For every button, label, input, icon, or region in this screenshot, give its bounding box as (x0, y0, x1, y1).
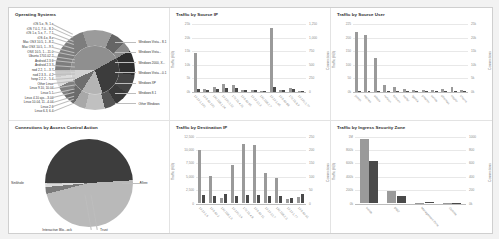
panel-title-traffic-destination-ip: Traffic by Destination IP (176, 125, 227, 130)
bar-connections (279, 196, 282, 204)
x-axis-baseline (196, 204, 306, 205)
bar-connections (263, 91, 266, 92)
bar-connections (425, 202, 434, 203)
y-axis-tick-right: 0 (309, 90, 311, 94)
label-leader-line (115, 72, 136, 73)
x-axis-label: bharris (459, 94, 468, 103)
sunburst-label-left: Linux 6.3, 6.4 (9, 109, 53, 113)
y-axis-tick-right: 0 (309, 202, 311, 206)
bar-chart-traffic-ingress-zone: 1M800k600k400k200k0k10008006004002000kTr… (331, 133, 492, 234)
y-axis-tick-right: 200 (309, 148, 314, 152)
y-axis-tick-left: 0 (170, 202, 194, 206)
y-axis-title-right: Connections (326, 163, 330, 182)
x-axis-label: tmiller (402, 94, 410, 103)
bar-connections (216, 89, 219, 92)
sunburst-label-right: Windows Vista... (138, 50, 161, 54)
bar-traffic (194, 53, 197, 92)
bar-chart-traffic-source-user: 225200150100500k25k20k15k10k5k0kTraffic … (331, 20, 492, 120)
bar-connections (235, 196, 238, 204)
sunburst-label-right: Other Windows (138, 102, 159, 106)
x-axis-baseline (355, 204, 466, 205)
bar-connections (254, 90, 257, 91)
bar-traffic (374, 58, 377, 92)
y-axis-tick-left: 0k (331, 90, 351, 94)
label-leader-line (115, 42, 136, 43)
label-leader-line (115, 62, 136, 63)
gridline (192, 38, 306, 39)
bar-traffic (364, 35, 367, 92)
gridline (353, 78, 468, 79)
y-axis-tick-left: 5k (170, 76, 190, 80)
x-axis-label: 10.100.0.77 (297, 94, 311, 108)
y-axis-tick-left: 800k (331, 148, 353, 152)
label-leader-line (115, 52, 136, 53)
sunburst-label-left: Linux 5.1 (9, 91, 53, 95)
x-axis-label: 10.5.60.91 (297, 206, 309, 219)
label-leader-line (115, 103, 136, 104)
bar-connections (235, 88, 238, 91)
panel-traffic-destination-ip: Traffic by Destination IP 12,50010,0007,… (170, 121, 331, 234)
y-axis-title-left: Traffic (KB) (171, 163, 175, 180)
gridline (192, 78, 306, 79)
panel-title-connections-access-control: Connections by Access Control Action (15, 125, 98, 130)
bar-connections (282, 90, 285, 91)
sunburst-label-right: Windows 2000, X... (138, 61, 165, 65)
bar-traffic (270, 28, 273, 92)
sunburst-label-left: Ubuntu 1701.02.2 (9, 54, 53, 58)
sunburst-label-left: Android 2.3.6 (9, 59, 53, 63)
bar-connections (268, 196, 271, 204)
y-axis-tick-right: 200 (469, 188, 474, 192)
bar-connections (225, 88, 228, 92)
sunburst-label-left: iOS 4.x, 8.x (9, 36, 53, 40)
y-axis-tick-right: 100 (309, 175, 314, 179)
gridline (196, 163, 306, 164)
sunburst-label-left: Linux 2.6 (9, 105, 53, 109)
sunburst-label-left: OSX 10.5, 1....11.0 (9, 50, 53, 54)
sunburst-label-left: Other Linux (9, 82, 53, 86)
y-axis-tick-right: 400 (469, 175, 474, 179)
bar-connections (246, 195, 249, 203)
y-axis-tick-left: 12,500 (170, 135, 194, 139)
y-axis-tick-right: 250 (309, 135, 314, 139)
bar-chart-traffic-destination-ip: 12,50010,0007,5005,0002,5000250200150100… (170, 133, 330, 234)
gridline (196, 137, 306, 138)
panel-operating-systems: Operating Systems iOS 5.x, 9i, 1.xiOS 7.… (9, 8, 170, 121)
pie-label-sinkhole: Sinkhole (11, 181, 24, 185)
y-axis-tick-left: 10,000 (170, 148, 194, 152)
y-axis-title-left: Traffic (KB) (332, 163, 336, 180)
y-axis-tick-right: 20k (471, 36, 476, 40)
bar-connections (197, 89, 200, 91)
bar-connections (202, 195, 205, 203)
gridline (353, 51, 468, 52)
sunburst-label-right: Windows Vista... 8.1 (138, 40, 166, 44)
y-axis-tick-left: 200 (331, 36, 351, 40)
gridline (353, 65, 468, 66)
sunburst-label-left: Mac OSX 10.5, 1....9.5 (9, 45, 53, 49)
bar-connections (244, 90, 247, 91)
sunburst-label-left: iOS 7.0.1, 7.0... 8.1 (9, 27, 53, 31)
y-axis-tick-right: 1,000 (309, 36, 317, 40)
bar-connections (290, 198, 293, 203)
sunburst-label-left: nod 2.3.3... 4.2 (9, 73, 53, 77)
sunburst-label-left: iOS 5.x, 9i, 1.x (9, 22, 53, 26)
x-axis-label: rwilson (383, 94, 392, 104)
bar-connections (257, 195, 260, 203)
y-axis-tick-right: 0k (469, 202, 472, 206)
pie-label-interactive-block: Interactive Blo...ock (42, 228, 72, 232)
label-leader-line (115, 93, 136, 94)
y-axis-tick-left: 225 (331, 22, 351, 26)
pie-label-trust: Trust (100, 228, 108, 232)
x-axis-label: ctaylor (450, 94, 459, 103)
y-axis-tick-left: 0k (331, 202, 353, 206)
gridline (353, 24, 468, 25)
sunburst-label-left: Linux 9.10, 10.04 (9, 86, 53, 90)
label-leader-line (115, 83, 136, 84)
gridline (192, 65, 306, 66)
sunburst-label-right: Windows 8.1 (138, 91, 156, 95)
bar-connections (369, 161, 378, 203)
panel-title-traffic-source-user: Traffic by Source User (337, 12, 385, 17)
x-axis-label: lgarcia (411, 94, 420, 103)
y-axis-tick-left: 20k (170, 36, 190, 40)
x-axis-label: Outside (448, 206, 458, 216)
label-leader-line (47, 183, 63, 184)
